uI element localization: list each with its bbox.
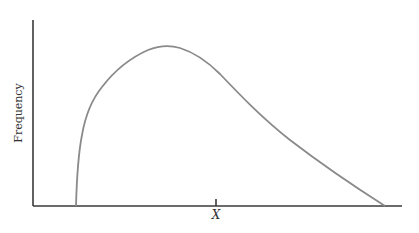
skewed-distribution-chart: Frequency X (0, 0, 419, 233)
distribution-curve (76, 46, 385, 206)
x-tick-label: X (211, 208, 221, 222)
y-axis-label: Frequency (12, 82, 25, 142)
